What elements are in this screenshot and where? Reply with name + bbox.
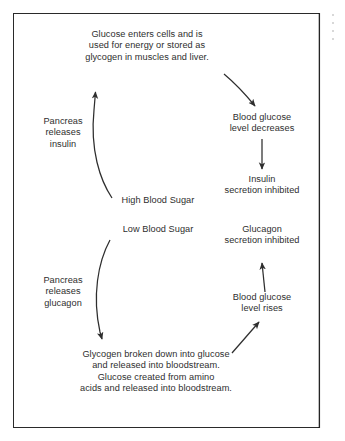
scan-artifact-mark <box>332 30 334 32</box>
scan-artifact-mark <box>332 14 334 16</box>
node-insulin-secretion-inhibited: Insulin secretion inhibited <box>202 174 322 197</box>
node-pancreas-releases-glucagon: Pancreas releases glucagon <box>25 275 101 309</box>
scan-artifact-mark <box>332 22 334 24</box>
node-low-blood-sugar: Low Blood Sugar <box>104 224 212 235</box>
diagram-page: Glucose enters cells and is used for ene… <box>0 0 345 441</box>
node-glucose-uptake: Glucose enters cells and is used for ene… <box>52 29 242 63</box>
node-blood-glucose-decreases: Blood glucose level decreases <box>206 112 318 135</box>
node-glucagon-secretion-inhibited: Glucagon secretion inhibited <box>202 224 322 247</box>
node-glycogen-breakdown: Glycogen broken down into glucose and re… <box>40 349 272 395</box>
node-high-blood-sugar: High Blood Sugar <box>104 195 212 206</box>
scan-artifact-mark <box>332 38 334 40</box>
node-pancreas-releases-insulin: Pancreas releases insulin <box>28 116 98 150</box>
scan-edge-shadow <box>318 13 321 428</box>
node-blood-glucose-rises: Blood glucose level rises <box>206 292 318 315</box>
